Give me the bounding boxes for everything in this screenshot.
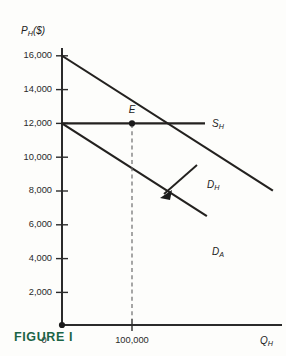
origin-dot bbox=[59, 322, 65, 328]
demand-home-label: DH bbox=[207, 179, 220, 192]
y-axis-title: PH($) bbox=[21, 25, 45, 38]
y-tick-label-10000: 10,000 bbox=[24, 152, 52, 162]
figure-caption: FIGURE I bbox=[14, 330, 73, 344]
equilibrium-point-label: E bbox=[129, 104, 136, 115]
supply-demand-chart: 16,000 14,000 12,000 10,000 8,000 6,000 … bbox=[0, 0, 286, 356]
figure-container: 16,000 14,000 12,000 10,000 8,000 6,000 … bbox=[0, 0, 286, 356]
demand-after-label-sub: A bbox=[218, 250, 224, 259]
y-axis-title-unit: ($) bbox=[33, 25, 45, 36]
demand-after-label: DA bbox=[212, 246, 224, 259]
y-tick-label-4000: 4,000 bbox=[29, 253, 52, 263]
y-tick-label-12000: 12,000 bbox=[24, 118, 52, 128]
x-axis-title-sub: H bbox=[268, 339, 274, 348]
demand-after-label-base: D bbox=[212, 246, 219, 257]
y-tick-label-2000: 2,000 bbox=[29, 287, 52, 297]
demand-curve-after bbox=[62, 123, 206, 215]
demand-home-label-sub: H bbox=[214, 183, 220, 192]
x-tick-label-100000: 100,000 bbox=[115, 335, 149, 345]
supply-curve-label-sub: H bbox=[219, 122, 225, 131]
y-tick-label-14000: 14,000 bbox=[24, 84, 52, 94]
equilibrium-point-dot bbox=[129, 120, 135, 126]
x-axis-title: QH bbox=[260, 335, 274, 348]
demand-shift-arrow-shaft bbox=[164, 165, 197, 194]
demand-home-label-base: D bbox=[207, 179, 214, 190]
supply-curve-label: SH bbox=[212, 118, 225, 131]
y-tick-label-8000: 8,000 bbox=[29, 185, 52, 195]
y-tick-label-6000: 6,000 bbox=[29, 219, 52, 229]
y-tick-label-16000: 16,000 bbox=[24, 50, 52, 60]
